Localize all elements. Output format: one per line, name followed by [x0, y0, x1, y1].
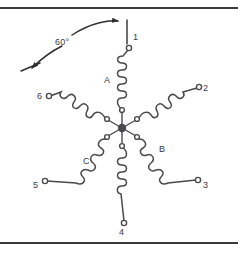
angle-leader-to-terminal-1	[72, 21, 118, 35]
coil-label-b: B	[159, 145, 165, 154]
terminal-label-3: 3	[203, 181, 208, 190]
figure-bottom-rule	[0, 242, 238, 244]
coil-4-path	[117, 147, 126, 221]
winding-diagram-svg	[0, 0, 238, 253]
angle-label: 60°	[55, 38, 69, 47]
terminal-dot-5	[42, 178, 47, 183]
hub-dot-3	[135, 135, 140, 140]
hub-dot-2	[135, 117, 140, 122]
coil-2-path	[139, 88, 197, 118]
angle-annotation-group	[21, 20, 127, 71]
terminal-label-5: 5	[33, 181, 38, 190]
coil-label-c: C	[83, 157, 90, 166]
hub-node	[118, 124, 126, 132]
coil-6-path	[50, 92, 105, 118]
hub-dot-1	[120, 108, 125, 113]
angle-tick-terminal-6	[21, 63, 40, 71]
coil-a-path	[118, 50, 129, 109]
terminal-dot-3	[195, 177, 200, 182]
terminal-dot-6	[46, 93, 51, 98]
hub-dot-6	[105, 117, 110, 122]
terminal-label-2: 2	[203, 84, 208, 93]
terminal-dot-4	[121, 220, 126, 225]
terminal-dot-2	[196, 84, 201, 89]
coil-b-path	[139, 139, 196, 184]
hub-dot-5	[105, 135, 110, 140]
coils-group	[47, 50, 197, 221]
terminal-label-1: 1	[133, 33, 138, 42]
figure-caption	[3, 246, 235, 253]
coil-label-a: A	[104, 76, 110, 85]
coil-c-path	[47, 139, 105, 184]
hub-dot-4	[120, 144, 125, 149]
terminal-label-4: 4	[119, 228, 124, 237]
terminal-label-6: 6	[37, 92, 42, 101]
terminal-dot-1	[126, 45, 131, 50]
figure-container: 60° 1 2 3 4 5 6 A B C	[0, 0, 238, 253]
